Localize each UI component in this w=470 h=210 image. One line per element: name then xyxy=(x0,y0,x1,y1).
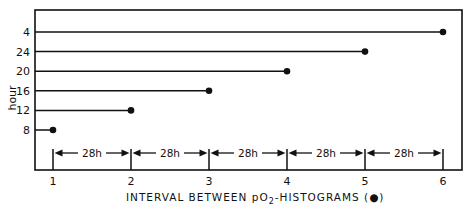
hour-row xyxy=(35,48,368,55)
x-tick-label: 3 xyxy=(206,175,213,188)
interval-label: 28h xyxy=(316,147,336,159)
y-tick-label: 20 xyxy=(16,65,30,78)
interval-arrow: 28h xyxy=(289,147,364,159)
arrowhead-right-icon xyxy=(200,150,208,157)
x-tick-label: 1 xyxy=(50,175,57,188)
interval-markers: 28h28h28h28h28h xyxy=(53,147,443,170)
hour-row xyxy=(35,68,290,75)
interval-chart: 4242016128 28h28h28h28h28h 123456 hour I… xyxy=(0,0,470,210)
arrowhead-right-icon xyxy=(278,150,286,157)
histogram-dot xyxy=(128,107,135,114)
interval-label: 28h xyxy=(82,147,102,159)
y-tick-label: 8 xyxy=(23,124,30,137)
arrowhead-left-icon xyxy=(211,150,219,157)
interval-arrow: 28h xyxy=(211,147,286,159)
arrowhead-right-icon xyxy=(122,150,130,157)
arrowhead-right-icon xyxy=(434,150,442,157)
hour-row xyxy=(35,107,134,114)
hour-row xyxy=(35,127,56,134)
histogram-dot xyxy=(362,48,369,55)
y-tick-label: 4 xyxy=(23,26,30,39)
arrowhead-left-icon xyxy=(55,150,63,157)
y-tick-label: 24 xyxy=(16,46,30,59)
hour-row xyxy=(35,88,212,95)
interval-arrow: 28h xyxy=(133,147,208,159)
interval-label: 28h xyxy=(394,147,414,159)
histogram-dot xyxy=(440,29,447,36)
hour-rows xyxy=(35,29,446,134)
arrowhead-right-icon xyxy=(356,150,364,157)
x-tick-label: 4 xyxy=(284,175,291,188)
arrowhead-left-icon xyxy=(133,150,141,157)
histogram-dot xyxy=(284,68,291,75)
interval-label: 28h xyxy=(160,147,180,159)
y-axis-title: hour xyxy=(6,85,19,111)
arrowhead-left-icon xyxy=(289,150,297,157)
histogram-dot xyxy=(50,127,57,134)
hour-row xyxy=(35,29,446,36)
x-tick-label: 2 xyxy=(128,175,135,188)
arrowhead-left-icon xyxy=(367,150,375,157)
x-axis-title: INTERVAL BETWEEN pO2-HISTOGRAMS (●) xyxy=(126,191,384,206)
interval-label: 28h xyxy=(238,147,258,159)
x-tick-label: 5 xyxy=(362,175,369,188)
interval-arrow: 28h xyxy=(55,147,130,159)
x-tick-label: 6 xyxy=(440,175,447,188)
y-axis-labels: 4242016128 xyxy=(16,26,30,137)
interval-arrow: 28h xyxy=(367,147,442,159)
plot-frame xyxy=(35,10,462,170)
x-axis-labels: 123456 xyxy=(50,175,447,188)
histogram-dot xyxy=(206,88,213,95)
